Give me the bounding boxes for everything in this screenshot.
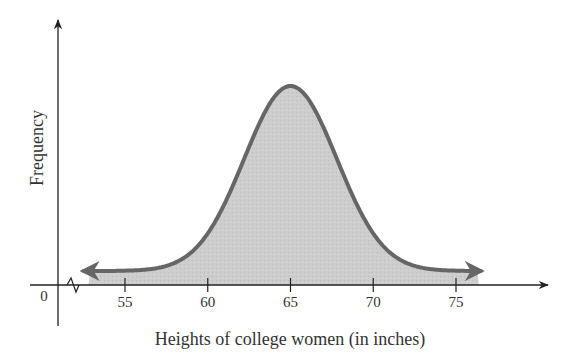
origin-label: 0 <box>40 288 48 304</box>
x-tick-label: 60 <box>200 294 215 310</box>
x-tick-label: 65 <box>283 294 298 310</box>
x-axis-label: Heights of college women (in inches) <box>155 329 425 350</box>
x-tick-label: 70 <box>366 294 381 310</box>
x-tick-label: 75 <box>449 294 464 310</box>
area-under-curve <box>89 86 479 285</box>
y-axis-label: Frequency <box>27 110 47 186</box>
x-tick-label: 55 <box>118 294 133 310</box>
chart: 5560657075 0 Heights of college women (i… <box>0 0 577 364</box>
x-tick-labels: 5560657075 <box>118 294 464 310</box>
